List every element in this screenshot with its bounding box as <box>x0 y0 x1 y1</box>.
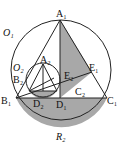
geometry-figure: A₁ O₁ O₂ A₂ E₂ E₁ B₂ C₂ B₁ D₂ D₁ C₁ R₂ <box>0 0 125 147</box>
label-C2: C₂ <box>75 87 85 97</box>
caption: R₂ <box>56 132 66 142</box>
label-B2: B₂ <box>13 75 23 85</box>
label-B1: B₁ <box>1 96 11 106</box>
label-D2: D₂ <box>33 99 44 109</box>
label-E2: E₂ <box>64 71 74 81</box>
label-C1: C₁ <box>107 96 117 106</box>
label-A2: A₂ <box>40 55 51 65</box>
label-E1: E₁ <box>89 63 99 73</box>
label-A1: A₁ <box>56 9 67 19</box>
label-D1: D₁ <box>56 100 67 110</box>
label-O1: O₁ <box>3 28 14 38</box>
label-O2: O₂ <box>13 63 24 73</box>
